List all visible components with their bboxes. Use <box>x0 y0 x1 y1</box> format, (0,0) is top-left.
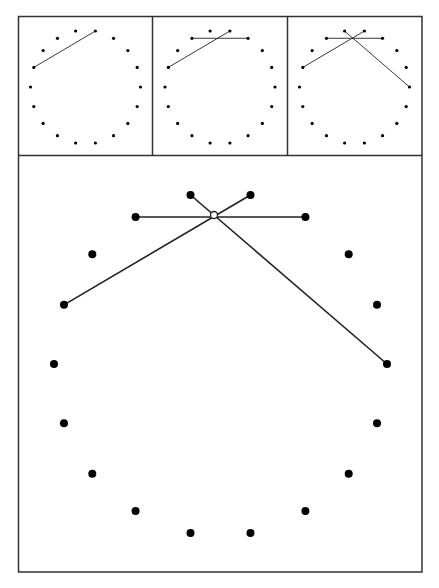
circle-point <box>132 213 140 221</box>
panel-enlarged <box>50 191 391 537</box>
circle-point <box>246 529 254 537</box>
circle-point <box>301 213 309 221</box>
circle-point <box>383 360 391 368</box>
circle-point <box>94 29 97 32</box>
circle-point <box>381 37 384 40</box>
circle-point <box>190 134 193 137</box>
circle-point <box>136 66 139 69</box>
circle-point <box>405 105 408 108</box>
circle-point <box>270 66 273 69</box>
circle-point <box>112 134 115 137</box>
circle-point <box>405 66 408 69</box>
circle-point <box>126 122 129 125</box>
circle-point <box>167 66 170 69</box>
circle-point <box>209 29 212 32</box>
panel-step-3 <box>298 29 411 144</box>
circle-point <box>270 105 273 108</box>
circle-point <box>56 37 59 40</box>
circle-point <box>32 105 35 108</box>
circle-point <box>209 141 212 144</box>
circle-point <box>261 122 264 125</box>
panel-step-2 <box>163 29 276 144</box>
circle-point <box>301 105 304 108</box>
circle-point <box>408 85 411 88</box>
outer-frame <box>19 17 423 573</box>
circle-point <box>311 122 314 125</box>
circle-point <box>29 85 32 88</box>
circle-point <box>32 66 35 69</box>
circle-point <box>74 141 77 144</box>
circle-point <box>246 37 249 40</box>
circle-point <box>60 301 68 309</box>
circle-point <box>301 66 304 69</box>
panel-frames <box>19 17 423 573</box>
circle-point <box>190 37 193 40</box>
circle-point <box>228 141 231 144</box>
segment-line <box>64 195 250 305</box>
circle-point <box>381 134 384 137</box>
circle-point <box>88 250 96 258</box>
circle-point <box>311 49 314 52</box>
circle-point <box>246 191 254 199</box>
circle-point <box>126 49 129 52</box>
circle-point <box>187 191 195 199</box>
circle-point <box>395 49 398 52</box>
circle-point <box>343 29 346 32</box>
circle-point <box>60 419 68 427</box>
circle-point <box>246 134 249 137</box>
panel-step-1 <box>29 29 142 144</box>
circle-point <box>94 141 97 144</box>
circle-point <box>298 85 301 88</box>
diagram-canvas <box>0 0 439 588</box>
circle-point <box>187 529 195 537</box>
circle-point <box>301 507 309 515</box>
circle-point <box>261 49 264 52</box>
circle-point <box>373 419 381 427</box>
circle-point <box>139 85 142 88</box>
circle-point <box>273 85 276 88</box>
segment-line <box>191 195 387 364</box>
circle-point <box>56 134 59 137</box>
circle-point <box>373 301 381 309</box>
circle-point <box>345 250 353 258</box>
circle-point <box>345 470 353 478</box>
circle-point <box>42 122 45 125</box>
circle-point <box>112 37 115 40</box>
circle-point <box>50 360 58 368</box>
circle-point <box>167 105 170 108</box>
circle-point <box>395 122 398 125</box>
circle-point <box>363 29 366 32</box>
circle-point <box>74 29 77 32</box>
circle-point <box>325 37 328 40</box>
intersection-marker <box>211 212 218 219</box>
circle-point <box>88 470 96 478</box>
circle-point <box>228 29 231 32</box>
circle-point <box>163 85 166 88</box>
circle-point <box>136 105 139 108</box>
segment-line <box>345 31 410 87</box>
circle-point <box>132 507 140 515</box>
circle-point <box>325 134 328 137</box>
circle-point <box>176 122 179 125</box>
circle-point <box>42 49 45 52</box>
circle-point <box>363 141 366 144</box>
circle-point <box>176 49 179 52</box>
circle-point <box>343 141 346 144</box>
